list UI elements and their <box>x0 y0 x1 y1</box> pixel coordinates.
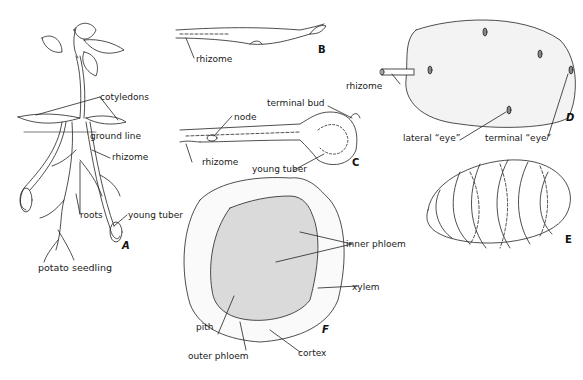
label-cotyledons: cotyledons <box>100 92 149 102</box>
label-roots: roots <box>80 210 103 220</box>
label-young-tuber-c: young tuber <box>252 164 307 174</box>
diagram-canvas <box>0 0 583 380</box>
label-xylem: xylem <box>352 282 379 292</box>
label-terminal-bud: terminal bud <box>267 98 325 108</box>
panel-letter-a: A <box>122 240 130 251</box>
label-rhizome-d: rhizome <box>346 81 382 91</box>
label-outer-phloem: outer phloem <box>188 351 249 361</box>
tuber-d-drawing <box>380 20 575 140</box>
label-ground-line: ground line <box>90 131 141 141</box>
label-rhizome-a: rhizome <box>112 152 148 162</box>
panel-letter-f: F <box>322 324 329 335</box>
panel-letter-c: C <box>352 157 359 168</box>
label-cortex: cortex <box>298 348 326 358</box>
label-node: node <box>234 112 256 122</box>
panel-letter-b: B <box>318 44 326 55</box>
label-rhizome-b: rhizome <box>196 54 232 64</box>
panel-letter-e: E <box>565 234 572 245</box>
label-inner-phloem: inner phloem <box>346 239 406 249</box>
rhizome-b-drawing <box>176 24 326 58</box>
seedling-drawing <box>18 23 127 262</box>
label-pith: pith <box>196 322 213 332</box>
label-rhizome-c: rhizome <box>202 157 238 167</box>
panel-letter-d: D <box>566 112 574 123</box>
label-young-tuber-a: young tuber <box>128 210 183 220</box>
label-terminal-eye: terminal “eye” <box>485 133 551 143</box>
label-lateral-eye: lateral “eye” <box>403 133 460 143</box>
caption-potato-seedling: potato seedling <box>38 262 112 273</box>
tuber-e-drawing <box>427 160 571 248</box>
